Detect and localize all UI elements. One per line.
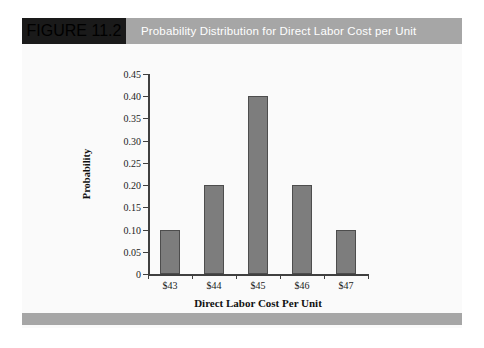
y-axis-tick	[143, 163, 148, 164]
y-axis-tick	[143, 141, 148, 142]
y-axis-tick-label: 0.05	[124, 246, 142, 257]
bar	[336, 230, 356, 274]
x-axis-tick-label: $45	[251, 280, 266, 291]
figure-card: FIGURE 11.2 Probability Distribution for…	[22, 18, 462, 328]
y-axis-tick	[143, 96, 148, 97]
bar	[160, 230, 180, 274]
chart-plot-area: 00.050.100.150.200.250.300.350.400.45 $4…	[148, 74, 368, 274]
y-axis-tick-label: 0	[136, 269, 141, 280]
y-axis-line	[148, 74, 150, 274]
x-axis-tick	[280, 274, 281, 279]
x-axis-tick-label: $43	[163, 280, 178, 291]
y-axis-tick-label: 0.35	[124, 113, 142, 124]
y-axis-tick	[143, 118, 148, 119]
figure-number-block: FIGURE 11.2	[22, 18, 126, 44]
bar	[204, 185, 224, 274]
y-axis-tick-label: 0.15	[124, 202, 142, 213]
bar	[292, 185, 312, 274]
y-axis-tick	[143, 207, 148, 208]
y-axis-tick-label: 0.25	[124, 157, 142, 168]
x-axis-tick-label: $44	[207, 280, 222, 291]
y-axis-tick	[143, 252, 148, 253]
y-axis-tick-label: 0.45	[124, 69, 142, 80]
y-axis-tick-label: 0.30	[124, 135, 142, 146]
x-axis-tick	[324, 274, 325, 279]
x-axis-tick	[192, 274, 193, 279]
y-axis-tick-label: 0.10	[124, 224, 142, 235]
x-axis-tick	[148, 274, 149, 279]
figure-title: Probability Distribution for Direct Labo…	[126, 18, 462, 44]
y-axis-tick-label: 0.20	[124, 180, 142, 191]
x-axis-line	[148, 274, 368, 276]
x-axis-tick	[236, 274, 237, 279]
figure-number-label: FIGURE 11.2	[27, 22, 122, 40]
x-axis-tick	[368, 274, 369, 279]
y-axis-tick-label: 0.40	[124, 91, 142, 102]
figure-footer-bar	[22, 313, 462, 325]
x-axis-title: Direct Labor Cost Per Unit	[148, 297, 368, 309]
y-axis-tick	[143, 230, 148, 231]
x-axis-tick-label: $46	[295, 280, 310, 291]
x-axis-tick-label: $47	[339, 280, 354, 291]
y-axis-tick	[143, 74, 148, 75]
y-axis-tick	[143, 185, 148, 186]
bar	[248, 96, 268, 274]
y-axis-title: Probability	[81, 149, 92, 200]
figure-header: FIGURE 11.2 Probability Distribution for…	[22, 18, 462, 44]
chart-body: 00.050.100.150.200.250.300.350.400.45 $4…	[22, 44, 462, 313]
